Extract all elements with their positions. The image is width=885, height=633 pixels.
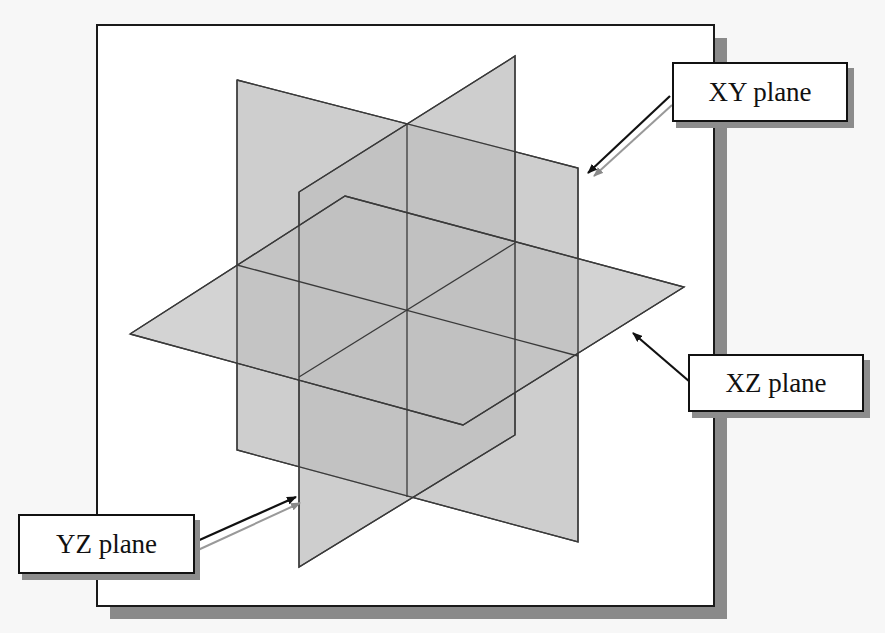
xy-plane-text: XY plane: [708, 79, 811, 106]
yz-plane-text: YZ plane: [56, 531, 157, 558]
xy-plane-label: XY plane: [672, 62, 848, 122]
yz-plane-label: YZ plane: [18, 514, 195, 574]
xz-plane-text: XZ plane: [725, 370, 826, 397]
xz-plane-label: XZ plane: [688, 354, 864, 412]
